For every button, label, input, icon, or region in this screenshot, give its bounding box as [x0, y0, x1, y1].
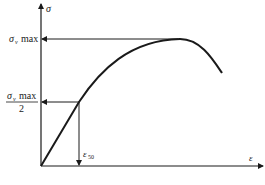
- svg-text:50: 50: [88, 154, 94, 160]
- svg-text:v: v: [15, 39, 18, 45]
- svg-text:ε: ε: [83, 149, 87, 159]
- y-axis-label: σ: [46, 3, 52, 14]
- svg-text:max: max: [19, 90, 36, 101]
- strain-50-label: ε 50: [83, 149, 94, 160]
- max-stress-label: σ v max: [9, 33, 38, 45]
- svg-text:v: v: [13, 96, 16, 102]
- svg-text:2: 2: [19, 103, 24, 114]
- half-max-stress-label: σ v max 2: [6, 90, 38, 114]
- svg-text:max: max: [21, 33, 38, 44]
- x-axis-label: ε: [249, 153, 253, 163]
- stress-strain-diagram: σ ε σ v max σ v max 2 ε 50: [0, 0, 265, 185]
